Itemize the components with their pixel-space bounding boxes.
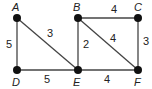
node-d bbox=[13, 66, 21, 74]
node-c bbox=[134, 14, 142, 22]
weight-d-e: 5 bbox=[44, 74, 50, 85]
node-label-b: B bbox=[73, 2, 80, 13]
weight-b-e: 2 bbox=[83, 39, 89, 50]
node-label-c: C bbox=[134, 2, 142, 13]
node-f bbox=[134, 66, 142, 74]
node-b bbox=[74, 14, 82, 22]
weight-e-f: 4 bbox=[104, 74, 110, 85]
weight-a-d: 5 bbox=[6, 39, 12, 50]
node-label-d: D bbox=[12, 77, 20, 88]
edge-a-e bbox=[17, 18, 78, 70]
weight-a-e: 3 bbox=[47, 28, 53, 39]
weight-b-f: 4 bbox=[110, 33, 116, 44]
weight-b-c: 4 bbox=[111, 4, 117, 15]
node-e bbox=[74, 66, 82, 74]
weight-c-f: 3 bbox=[143, 36, 149, 47]
node-label-a: A bbox=[12, 2, 19, 13]
node-label-e: E bbox=[73, 77, 80, 88]
node-label-f: F bbox=[134, 77, 141, 88]
node-a bbox=[13, 14, 21, 22]
